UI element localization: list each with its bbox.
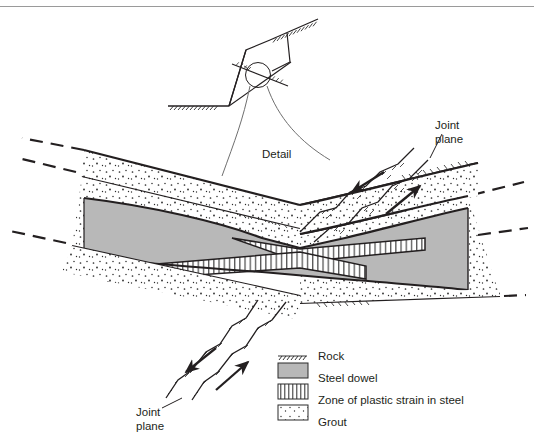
shear-arrow-lower-right (216, 362, 248, 390)
legend-item-grout: Grout (277, 412, 522, 433)
inset-wedge-left-edge (229, 50, 246, 106)
legend-label-plastic-strain: Zone of plastic strain in steel (318, 394, 464, 407)
dashed-wall-upper-right (472, 182, 524, 195)
detail-label: Detail (262, 148, 291, 162)
hatched-line-icon (277, 353, 307, 361)
joint-plane-label-top-right-line2: plane (435, 133, 463, 147)
joint-plane-label-bottom-left-line2: plane (136, 420, 164, 434)
legend-item-steel-dowel: Steel dowel (277, 368, 522, 389)
legend-item-plastic-strain: Zone of plastic strain in steel (277, 390, 522, 411)
dashed-wall-lower-right (504, 295, 526, 296)
joint-plane-label-bottom-left: Joint plane (136, 406, 164, 433)
detail-leader-left (222, 86, 250, 176)
dashed-wall-upper-left (18, 158, 76, 172)
detail-circle (246, 63, 271, 88)
dashed-wall-upper-left-outer (22, 138, 84, 150)
slope-wedge-inset (168, 19, 318, 110)
joint-plane-label-top-right-line1: Joint (435, 119, 463, 133)
joint-plane-label-bottom-left-line1: Joint (136, 406, 164, 420)
dashed-wall-upper-right-outer (478, 228, 528, 235)
legend-label-grout: Grout (318, 416, 347, 429)
dashed-wall-lower-left (10, 231, 66, 243)
joint-plane-label-top-right: Joint plane (435, 119, 463, 146)
legend-label-steel-dowel: Steel dowel (318, 372, 377, 385)
legend: Rock Steel dowel Zone of plastic strain … (277, 346, 522, 434)
joint-label-leader-bottom-left (162, 398, 182, 408)
inset-crest-line (270, 19, 318, 40)
joint-plane-lower-left-trace-b (192, 302, 286, 400)
legend-label-rock: Rock (318, 350, 344, 363)
inset-crest-hatch-icon (273, 22, 317, 43)
shear-arrow-lower-left (186, 348, 216, 372)
inset-slope-face (229, 40, 270, 106)
figure-dowel-across-joint: Detail Joint plane Joint plane Rock Stee… (0, 0, 534, 445)
legend-item-rock: Rock (277, 346, 522, 367)
